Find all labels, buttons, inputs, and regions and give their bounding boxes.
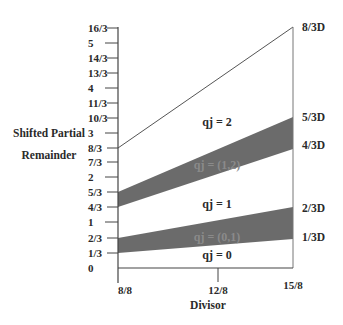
region-label-qj-2: qj = 2 [202, 115, 232, 129]
y-tick-label: 8/3 [88, 142, 103, 154]
y-tick-label: 2/3 [88, 232, 103, 244]
y-tick-label: 14/3 [88, 52, 108, 64]
boundary-label-5-3d: 5/3D [302, 111, 325, 123]
boundary-label-2-3d: 2/3D [302, 202, 325, 214]
y-tick-label: 7/3 [88, 156, 103, 168]
y-tick-label: 3 [88, 127, 94, 139]
y-tick-label: 2 [88, 171, 94, 183]
y-tick-labels: 16/3 5 14/3 13/3 4 11/3 10/3 3 8/3 7/3 2… [88, 22, 108, 274]
y-axis-title-line1: Shifted Partial [13, 127, 85, 139]
y-axis-title-line2: Remainder [22, 149, 77, 161]
boundary-label-1-3d: 1/3D [302, 231, 325, 243]
x-tick-label: 15/8 [283, 279, 303, 291]
y-tick-label: 10/3 [88, 112, 108, 124]
x-tick-label: 12/8 [208, 284, 228, 296]
y-tick-label: 0 [88, 262, 94, 274]
y-tick-label: 5 [88, 37, 94, 49]
x-axis-title: Divisor [190, 299, 226, 311]
region-label-qj-0-1: qj = (0,1) [194, 230, 241, 244]
region-label-qj-1: qj = 1 [202, 197, 232, 211]
boundary-label-4-3d: 4/3D [302, 139, 325, 151]
y-tick-label: 4 [88, 82, 94, 94]
y-tick-label: 5/3 [88, 186, 103, 198]
y-tick-label: 4/3 [88, 201, 103, 213]
y-tick-label: 16/3 [88, 22, 108, 34]
region-label-qj-1-2: qj = (1,2) [194, 158, 241, 172]
region-label-qj-0: qj = 0 [202, 248, 232, 262]
x-tick-label: 8/8 [118, 284, 133, 296]
y-tick-label: 1 [88, 216, 94, 228]
boundary-label-8-3d: 8/3D [302, 21, 325, 33]
y-tick-label: 13/3 [88, 67, 108, 79]
pd-plot-diagram: 16/3 5 14/3 13/3 4 11/3 10/3 3 8/3 7/3 2… [0, 0, 343, 325]
y-tick-label: 1/3 [88, 247, 103, 259]
y-tick-label: 11/3 [88, 97, 107, 109]
